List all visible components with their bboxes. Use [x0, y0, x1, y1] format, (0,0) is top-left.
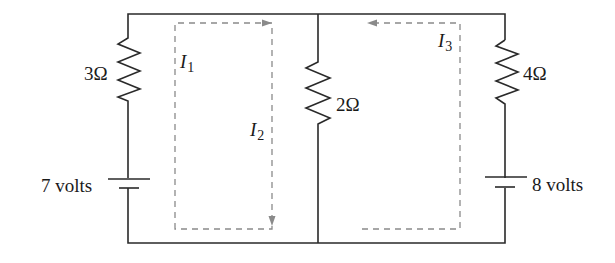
arrow-left-icon: [367, 20, 377, 27]
circuit-diagram: [0, 0, 615, 263]
label-7-volts: 7 volts: [41, 176, 92, 195]
label-2-ohm: 2Ω: [336, 95, 360, 114]
arrow-down-icon: [269, 216, 276, 226]
resistor-2-ohm: [306, 14, 330, 243]
label-3-ohm: 3Ω: [84, 64, 108, 83]
label-4-ohm: 4Ω: [523, 64, 547, 83]
resistor-3-ohm: [118, 34, 140, 178]
bottom-wire: [128, 188, 505, 243]
label-8-volts: 8 volts: [532, 175, 583, 194]
current-label-i1: I1: [180, 52, 194, 75]
arrow-right-icon: [262, 20, 272, 27]
current-label-i2: I2: [250, 120, 264, 143]
resistor-4-ohm: [496, 40, 518, 178]
current-label-i3: I3: [438, 31, 452, 54]
